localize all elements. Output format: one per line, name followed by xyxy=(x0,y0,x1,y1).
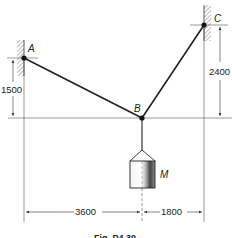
label-mass: M xyxy=(160,169,169,180)
joint-b xyxy=(139,115,144,120)
cable-bc xyxy=(142,25,204,118)
dimension-label-1800: 1800 xyxy=(161,206,182,217)
label-b: B xyxy=(134,103,141,114)
dimension-label-3600: 3600 xyxy=(75,206,96,217)
mass-block xyxy=(130,150,155,188)
dimension-label-1500: 1500 xyxy=(1,84,22,95)
label-a: A xyxy=(27,43,35,54)
joint-c xyxy=(201,22,206,27)
cable-mass-diagram: A B C M 1500 2400 3600 1800 Fig. P4.39 xyxy=(0,0,232,238)
joint-a xyxy=(21,55,26,60)
dimension-label-2400: 2400 xyxy=(209,66,230,77)
cable-ab xyxy=(24,58,142,118)
figure-caption: Fig. P4.39 xyxy=(94,233,136,238)
label-c: C xyxy=(214,13,222,24)
reference-lines xyxy=(7,25,232,222)
cables xyxy=(24,25,204,150)
